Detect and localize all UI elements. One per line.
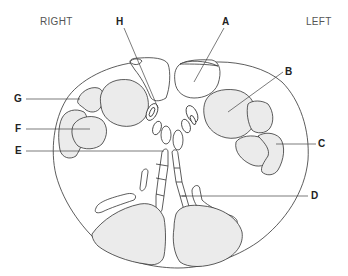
orientation-right-label: RIGHT xyxy=(40,16,73,27)
label-d: D xyxy=(311,190,318,201)
anatomy-cross-section-svg xyxy=(0,0,348,276)
label-e: E xyxy=(15,145,22,156)
structure-g xyxy=(78,88,104,112)
orientation-left-label: LEFT xyxy=(306,16,332,27)
bottom-muscle-left-side xyxy=(173,205,242,266)
structure-f-inner xyxy=(72,117,107,149)
central-oval-left-low xyxy=(161,126,171,144)
segment-column-right xyxy=(172,150,190,213)
structure-b-adjacent xyxy=(247,101,273,133)
label-g: G xyxy=(14,93,22,104)
elongated-structure-left-upper xyxy=(140,169,148,191)
bottom-muscle-right-side xyxy=(92,204,166,265)
structure-right-large-round xyxy=(100,80,148,127)
label-f: F xyxy=(15,123,21,134)
label-c: C xyxy=(318,138,325,149)
central-oval-right-low xyxy=(173,130,183,150)
cross-section-diagram: RIGHT LEFT A B C D E F G H xyxy=(0,0,348,276)
structure-h-band xyxy=(130,59,142,65)
label-h: H xyxy=(116,16,123,27)
label-a: A xyxy=(222,16,229,27)
label-b: B xyxy=(285,66,292,77)
segment-column-left xyxy=(156,149,168,213)
